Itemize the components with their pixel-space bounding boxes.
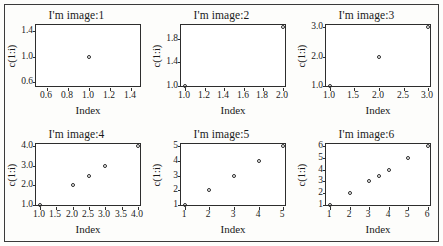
y-axis-tick <box>33 166 36 167</box>
x-axis-title: Index <box>325 223 431 235</box>
y-axis-tick-label: 3 <box>173 170 178 180</box>
y-axis-tick-label: 0.6 <box>21 76 33 86</box>
x-axis-tick-label: 5 <box>280 209 285 220</box>
y-axis-tick-label: 3.0 <box>311 21 323 31</box>
x-axis-tick-label: 0.6 <box>40 90 52 101</box>
y-axis-tick <box>33 31 36 32</box>
data-point <box>281 25 285 29</box>
x-axis-tick-labels: 1.01.21.41.61.82.0 <box>180 90 286 102</box>
y-axis-tick-label: 2.0 <box>311 51 323 61</box>
y-axis-tick-label: 6 <box>318 140 323 150</box>
x-axis-tick-label: 2 <box>347 209 352 220</box>
panel-title: I'm image:3 <box>294 9 439 21</box>
y-axis-tick-label: 4 <box>318 164 323 174</box>
data-point <box>387 168 391 172</box>
y-axis-tick-label: 2.0 <box>21 179 33 189</box>
y-axis-tick-label: 1 <box>173 199 178 209</box>
x-axis-tick-labels: 1.01.52.02.53.03.54.0 <box>35 209 141 221</box>
x-axis-tick-labels: 123456 <box>325 209 431 221</box>
plot-area <box>325 24 431 87</box>
data-point <box>136 144 140 148</box>
x-axis-tick-label: 4 <box>386 209 391 220</box>
y-axis-tick-labels: 1.01.41.8 <box>155 24 178 87</box>
y-axis-tick-label: 1.4 <box>166 56 178 66</box>
y-axis-tick <box>178 205 181 206</box>
y-axis-tick-label: 1.0 <box>21 199 33 209</box>
x-axis-tick-labels: 0.60.81.01.21.4 <box>35 90 141 102</box>
x-axis-tick-label: 6 <box>425 209 430 220</box>
x-axis-tick-label: 2.5 <box>397 90 409 101</box>
y-axis-tick <box>323 27 326 28</box>
x-axis-tick-label: 3 <box>366 209 371 220</box>
data-point <box>257 159 261 163</box>
y-axis-tick-label: 1.0 <box>21 51 33 61</box>
panel-title: I'm image:4 <box>4 128 149 140</box>
panel-title: I'm image:5 <box>149 128 294 140</box>
data-point <box>348 191 352 195</box>
x-axis-tick-labels: 1.01.52.02.53.0 <box>325 90 431 102</box>
plot-area <box>325 143 431 206</box>
y-axis-tick-labels: 1.02.03.0 <box>300 24 323 87</box>
x-axis-tick-label: 2.0 <box>66 209 78 220</box>
data-points <box>36 25 140 86</box>
y-axis-tick <box>178 62 181 63</box>
x-axis-tick-label: 1.6 <box>237 90 249 101</box>
plot-area <box>35 143 141 206</box>
x-axis-tick-label: 3.0 <box>421 90 433 101</box>
x-axis-title: Index <box>35 223 141 235</box>
x-axis-tick-label: 1.4 <box>217 90 229 101</box>
y-axis-tick-label: 4.0 <box>21 140 33 150</box>
y-axis-tick <box>323 170 326 171</box>
x-axis-tick-label: 2.0 <box>276 90 288 101</box>
y-axis-tick <box>178 146 181 147</box>
y-axis-tick-label: 3.0 <box>21 160 33 170</box>
figure-canvas: I'm image:1 c(1:i) 0.61.01.4 0.60.81.01.… <box>0 0 443 246</box>
y-axis-tick <box>33 57 36 58</box>
x-axis-tick-label: 3.5 <box>115 209 127 220</box>
panel-title: I'm image:1 <box>4 9 149 21</box>
y-axis-tick <box>323 86 326 87</box>
x-axis-tick-label: 0.8 <box>61 90 73 101</box>
x-axis-title: Index <box>180 223 286 235</box>
y-axis-tick-label: 2 <box>318 187 323 197</box>
panel-grid: I'm image:1 c(1:i) 0.61.01.4 0.60.81.01.… <box>4 4 439 242</box>
data-points <box>326 144 430 205</box>
y-axis-tick <box>323 205 326 206</box>
chart-panel-1: I'm image:1 c(1:i) 0.61.01.4 0.60.81.01.… <box>4 4 149 123</box>
y-axis-tick <box>323 181 326 182</box>
y-axis-tick-labels: 123456 <box>300 143 323 206</box>
x-axis-tick-label: 1.0 <box>82 90 94 101</box>
data-points <box>326 25 430 86</box>
x-axis-tick-label: 1.2 <box>103 90 115 101</box>
chart-panel-2: I'm image:2 c(1:i) 1.01.41.8 1.01.21.41.… <box>149 4 294 123</box>
x-axis-tick-label: 3 <box>231 209 236 220</box>
y-axis-tick <box>178 39 181 40</box>
y-axis-tick-label: 2 <box>173 184 178 194</box>
plot-area <box>180 24 286 87</box>
data-point <box>281 144 285 148</box>
data-point <box>87 55 91 59</box>
x-axis-tick-labels: 12345 <box>180 209 286 221</box>
x-axis-tick-label: 4 <box>256 209 261 220</box>
x-axis-tick-label: 1.0 <box>323 90 335 101</box>
y-axis-tick-labels: 12345 <box>155 143 178 206</box>
data-point <box>426 25 430 29</box>
x-axis-tick-label: 1.0 <box>33 209 45 220</box>
y-axis-tick-labels: 0.61.01.4 <box>10 24 33 87</box>
data-point <box>103 164 107 168</box>
chart-panel-6: I'm image:6 c(1:i) 123456 123456 Index <box>294 123 439 242</box>
x-axis-tick-label: 4.0 <box>131 209 143 220</box>
y-axis-tick <box>323 193 326 194</box>
x-axis-tick-label: 3.0 <box>98 209 110 220</box>
y-axis-tick <box>33 82 36 83</box>
plot-area <box>35 24 141 87</box>
x-axis-tick-label: 1.0 <box>178 90 190 101</box>
data-points <box>36 144 140 205</box>
x-axis-title: Index <box>325 104 431 116</box>
x-axis-title: Index <box>35 104 141 116</box>
x-axis-tick-label: 2 <box>206 209 211 220</box>
y-axis-tick <box>33 146 36 147</box>
y-axis-tick <box>178 161 181 162</box>
x-axis-tick-label: 1.4 <box>124 90 136 101</box>
x-axis-tick-label: 1.5 <box>49 209 61 220</box>
